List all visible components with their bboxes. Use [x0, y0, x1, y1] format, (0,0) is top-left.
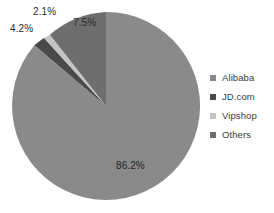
chart-legend: Alibaba JD.com Vipshop Others [210, 68, 274, 144]
legend-item-others[interactable]: Others [210, 125, 274, 144]
pie-chart: 7.5% 2.1% 4.2% 86.2% Alibaba JD.com Vips… [0, 0, 274, 213]
legend-label: Vipshop [222, 110, 257, 121]
legend-swatch-icon [210, 113, 216, 119]
legend-label: Alibaba [222, 72, 254, 83]
legend-swatch-icon [210, 75, 216, 81]
legend-label: Others [222, 129, 251, 140]
slice-label-vipshop: 2.1% [33, 6, 56, 17]
slice-label-jd: 4.2% [10, 23, 33, 34]
pie-slice-alibaba[interactable] [12, 12, 200, 200]
legend-item-jd[interactable]: JD.com [210, 87, 274, 106]
slice-label-alibaba: 86.2% [116, 160, 145, 171]
legend-item-vipshop[interactable]: Vipshop [210, 106, 274, 125]
legend-swatch-icon [210, 132, 216, 138]
legend-item-alibaba[interactable]: Alibaba [210, 68, 274, 87]
legend-swatch-icon [210, 94, 216, 100]
slice-label-others: 7.5% [73, 17, 96, 28]
legend-label: JD.com [222, 91, 255, 102]
